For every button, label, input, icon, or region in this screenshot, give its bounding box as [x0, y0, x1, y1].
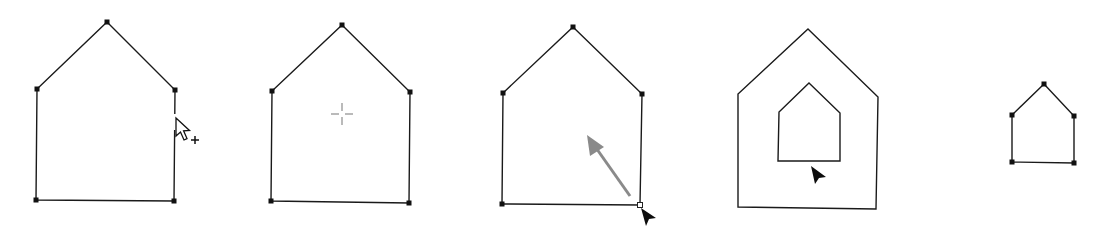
anchor-point[interactable] — [1042, 82, 1047, 87]
anchor-point[interactable] — [35, 87, 40, 92]
outer-house-path — [738, 29, 878, 209]
anchor-point[interactable] — [34, 198, 39, 203]
anchor-point[interactable] — [1072, 161, 1077, 166]
anchor-points — [34, 20, 178, 204]
panel-5-house — [1010, 82, 1077, 166]
anchor-point[interactable] — [1072, 114, 1077, 119]
anchor-point[interactable] — [173, 88, 178, 93]
panel-4-houses — [738, 29, 878, 209]
anchor-points — [500, 25, 645, 208]
anchor-points — [1010, 82, 1077, 166]
anchor-points — [269, 23, 413, 206]
anchor-point[interactable] — [1010, 160, 1015, 165]
panel-1-house — [34, 20, 200, 204]
panel-3-house — [500, 25, 657, 227]
anchor-point[interactable] — [172, 199, 177, 204]
house-path — [271, 25, 410, 203]
selection-arrow-cursor-icon — [811, 166, 826, 184]
anchor-point[interactable] — [640, 92, 645, 97]
selected-anchor-point[interactable] — [638, 203, 643, 208]
anchor-point[interactable] — [500, 202, 505, 207]
inner-house-path — [778, 83, 840, 161]
anchor-point[interactable] — [269, 199, 274, 204]
house-path — [36, 22, 175, 201]
anchor-point[interactable] — [501, 91, 506, 96]
anchor-point[interactable] — [105, 20, 110, 25]
anchor-point[interactable] — [408, 90, 413, 95]
anchor-point[interactable] — [270, 89, 275, 94]
anchor-point[interactable] — [407, 201, 412, 206]
crosshair-cursor-icon — [331, 103, 353, 125]
selection-arrow-cursor-icon — [641, 208, 656, 226]
add-anchor-point-cursor-icon — [176, 118, 199, 144]
drag-direction-arrow-icon — [587, 135, 630, 196]
anchor-point[interactable] — [340, 23, 345, 28]
illustration-canvas — [0, 0, 1114, 233]
house-path — [1012, 84, 1074, 163]
anchor-point[interactable] — [571, 25, 576, 30]
anchor-point[interactable] — [1010, 113, 1015, 118]
panel-2-house — [269, 23, 413, 206]
house-path — [502, 27, 642, 205]
